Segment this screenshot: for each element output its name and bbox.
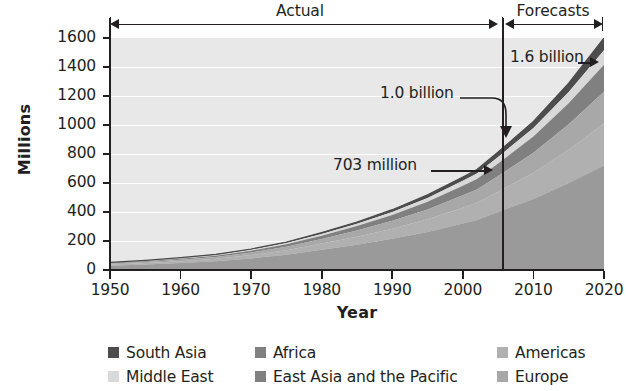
callout-10-leader xyxy=(460,88,550,148)
x-tick xyxy=(109,271,111,279)
legend-swatch-icon xyxy=(255,347,266,358)
period-arrow-left-forecasts xyxy=(505,19,514,29)
y-tick-label: 800 xyxy=(30,146,96,162)
y-tick xyxy=(103,37,110,39)
y-tick xyxy=(103,153,110,155)
legend-label: Africa xyxy=(273,344,316,362)
y-tick-label: 200 xyxy=(30,233,96,249)
legend-label: Middle East xyxy=(126,368,213,386)
y-tick-label: 400 xyxy=(30,204,96,220)
callout-703-leader xyxy=(431,170,486,172)
x-tick-label: 1970 xyxy=(221,281,281,299)
period-rule-actual xyxy=(118,24,494,26)
y-tick-label: 1400 xyxy=(30,59,96,75)
period-arrow-left-actual xyxy=(110,19,119,29)
x-axis-title: Year xyxy=(110,303,604,322)
legend-swatch-icon xyxy=(497,371,508,382)
x-tick-label: 2000 xyxy=(433,281,493,299)
callout-703-arrowhead xyxy=(484,165,493,175)
x-tick-label: 1950 xyxy=(80,281,140,299)
callout-703-label: 703 million xyxy=(333,156,417,174)
period-label-forecasts: Forecasts xyxy=(503,2,603,20)
x-tick-label: 1980 xyxy=(292,281,352,299)
x-axis-line xyxy=(110,269,604,271)
legend-swatch-icon xyxy=(497,347,508,358)
stacked-area-series xyxy=(110,38,604,271)
legend-label: Americas xyxy=(515,344,585,362)
x-tick-label: 1990 xyxy=(362,281,422,299)
x-tick xyxy=(250,271,252,279)
x-tick-label: 2010 xyxy=(503,281,563,299)
legend-swatch-icon xyxy=(255,371,266,382)
y-tick xyxy=(103,211,110,213)
legend-item[interactable]: Europe xyxy=(497,365,568,388)
x-tick xyxy=(391,271,393,279)
legend-item[interactable]: Middle East xyxy=(108,365,213,388)
y-tick-label: 1200 xyxy=(30,88,96,104)
period-arrow-right-actual xyxy=(489,19,498,29)
legend-label: East Asia and the Pacific xyxy=(273,368,458,386)
legend-label: Europe xyxy=(515,368,568,386)
callout-16-arrowhead xyxy=(590,57,599,67)
y-tick-label: 1000 xyxy=(30,117,96,133)
legend-item[interactable]: Africa xyxy=(255,341,316,364)
x-tick xyxy=(462,271,464,279)
legend-label: South Asia xyxy=(126,344,206,362)
y-axis-line xyxy=(109,18,111,270)
x-tick-label: 2020 xyxy=(574,281,628,299)
x-tick xyxy=(180,271,182,279)
callout-10-label: 1.0 billion xyxy=(380,84,454,102)
y-tick xyxy=(103,182,110,184)
x-tick xyxy=(603,271,605,279)
legend-swatch-icon xyxy=(108,347,119,358)
legend: South AsiaAfricaAmericasMiddle EastEast … xyxy=(0,341,613,391)
period-rule-forecasts xyxy=(513,24,595,26)
legend-item[interactable]: East Asia and the Pacific xyxy=(255,365,458,388)
y-tick xyxy=(103,95,110,97)
x-tick xyxy=(321,271,323,279)
y-axis-title: Millions xyxy=(15,70,34,210)
y-tick-label: 1600 xyxy=(30,30,96,46)
y-tick-label: 0 xyxy=(30,262,96,278)
y-tick xyxy=(103,240,110,242)
legend-item[interactable]: Americas xyxy=(497,341,585,364)
x-tick-label: 1960 xyxy=(151,281,211,299)
y-tick xyxy=(103,66,110,68)
y-tick xyxy=(103,124,110,126)
x-tick xyxy=(533,271,535,279)
period-label-actual: Actual xyxy=(200,2,400,20)
y-tick-label: 600 xyxy=(30,175,96,191)
legend-item[interactable]: South Asia xyxy=(108,341,206,364)
callout-16-label: 1.6 billion xyxy=(510,48,584,66)
legend-swatch-icon xyxy=(108,371,119,382)
